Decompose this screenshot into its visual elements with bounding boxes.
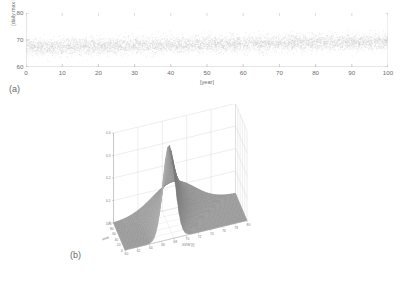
panel-b-tag: (b) xyxy=(70,250,81,260)
panel-a-ytick-60: 60 xyxy=(17,64,24,70)
svg-text:76: 76 xyxy=(222,229,226,233)
svg-text:78: 78 xyxy=(234,226,238,230)
svg-text:0: 0 xyxy=(121,249,123,253)
panel-a-tag: (a) xyxy=(9,84,20,94)
svg-text:72: 72 xyxy=(198,235,202,239)
panel-a-xtick-0: 0 xyxy=(24,70,27,76)
svg-text:68: 68 xyxy=(173,240,177,244)
figure-container: [daily max GVW] 60 70 80 0 10 20 30 40 5… xyxy=(0,0,416,283)
svg-text:0.4: 0.4 xyxy=(106,131,111,135)
panel-b-plot-svg: 0.40.30.20.10606264666870727476788010080… xyxy=(0,104,416,283)
svg-text:64: 64 xyxy=(149,246,153,250)
panel-a-axes: [daily max GVW] 60 70 80 0 10 20 30 40 5… xyxy=(26,13,388,67)
panel-a-xtick-60: 60 xyxy=(240,70,247,76)
svg-text:74: 74 xyxy=(210,232,214,236)
svg-text:70: 70 xyxy=(186,237,190,241)
panel-a-xtick-50: 50 xyxy=(204,70,211,76)
panel-a-xtick-70: 70 xyxy=(276,70,283,76)
svg-text:0.2: 0.2 xyxy=(106,176,111,180)
panel-b-surface: 0.40.30.20.10606264666870727476788010080… xyxy=(0,104,416,283)
panel-a-xtick-20: 20 xyxy=(95,70,102,76)
svg-text:0.1: 0.1 xyxy=(106,199,111,203)
svg-text:62: 62 xyxy=(137,249,141,253)
panel-a-xtick-90: 90 xyxy=(348,70,355,76)
svg-text:60: 60 xyxy=(112,232,116,236)
svg-text:20: 20 xyxy=(117,243,121,247)
panel-a-xlabel: [year] xyxy=(200,79,214,85)
panel-a-xtick-80: 80 xyxy=(312,70,319,76)
panel-a-ytick-80: 80 xyxy=(17,10,24,16)
surface-mesh xyxy=(114,145,248,250)
panel-a-xtick-30: 30 xyxy=(131,70,138,76)
svg-text:80: 80 xyxy=(247,223,251,227)
svg-text:66: 66 xyxy=(161,243,165,247)
svg-text:0.3: 0.3 xyxy=(106,154,111,158)
panel-a-plot-svg xyxy=(26,13,388,67)
panel-a-xtick-40: 40 xyxy=(167,70,174,76)
svg-text:60: 60 xyxy=(125,252,129,256)
panel-a-scatter: [daily max GVW] 60 70 80 0 10 20 30 40 5… xyxy=(0,0,416,104)
panel-a-xtick-10: 10 xyxy=(59,70,66,76)
panel-a-xtick-100: 100 xyxy=(383,70,393,76)
svg-text:40: 40 xyxy=(115,238,119,242)
svg-text:100: 100 xyxy=(106,222,112,226)
svg-text:Year: Year xyxy=(101,235,110,242)
svg-text:GVW [t]: GVW [t] xyxy=(182,243,195,247)
panel-a-ylabel: [daily max GVW] xyxy=(10,0,22,33)
panel-a-ytick-70: 70 xyxy=(17,37,24,43)
svg-text:80: 80 xyxy=(110,227,114,231)
scatter-cloud xyxy=(26,21,388,62)
